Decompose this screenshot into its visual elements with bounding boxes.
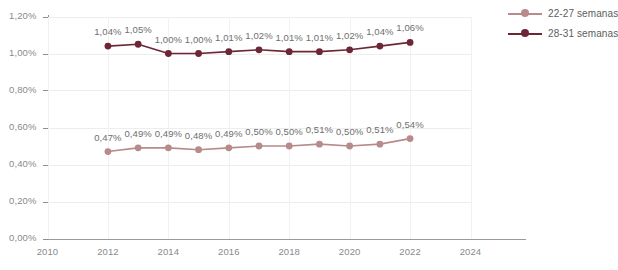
- data-point-marker[interactable]: [346, 46, 353, 53]
- data-point-label: 1,06%: [396, 22, 423, 33]
- data-point-label: 1,00%: [185, 34, 212, 45]
- data-point-marker[interactable]: [376, 43, 383, 50]
- data-point-marker[interactable]: [407, 135, 414, 142]
- data-point-marker[interactable]: [225, 144, 232, 151]
- data-point-label: 0,47%: [94, 132, 121, 143]
- data-point-marker[interactable]: [165, 50, 172, 57]
- data-point-label: 1,04%: [366, 26, 393, 37]
- data-point-label: 1,01%: [275, 32, 302, 43]
- data-point-label: 0,51%: [366, 124, 393, 135]
- legend-item[interactable]: 28-31 semanas: [508, 28, 618, 39]
- data-point-label: 0,49%: [124, 128, 151, 139]
- data-point-marker[interactable]: [376, 141, 383, 148]
- chart-legend: 22-27 semanas28-31 semanas: [508, 8, 618, 39]
- data-point-marker[interactable]: [135, 144, 142, 151]
- data-point-label: 0,48%: [185, 130, 212, 141]
- data-point-label: 0,51%: [306, 124, 333, 135]
- data-point-marker[interactable]: [105, 43, 112, 50]
- data-point-label: 0,50%: [275, 126, 302, 137]
- data-point-label: 1,02%: [336, 30, 363, 41]
- data-point-label: 0,49%: [215, 128, 242, 139]
- legend-item-label: 22-27 semanas: [548, 8, 618, 19]
- legend-item[interactable]: 22-27 semanas: [508, 8, 618, 19]
- data-point-label: 1,05%: [124, 24, 151, 35]
- legend-item-label: 28-31 semanas: [548, 28, 618, 39]
- data-point-marker[interactable]: [225, 48, 232, 55]
- data-point-marker[interactable]: [407, 39, 414, 46]
- data-point-marker[interactable]: [286, 143, 293, 150]
- data-point-label: 1,02%: [245, 30, 272, 41]
- legend-swatch-icon: [508, 28, 542, 39]
- data-point-marker[interactable]: [135, 41, 142, 48]
- data-point-marker[interactable]: [195, 146, 202, 153]
- data-point-label: 1,04%: [94, 26, 121, 37]
- data-point-label: 0,50%: [336, 126, 363, 137]
- data-point-marker[interactable]: [316, 141, 323, 148]
- data-point-marker[interactable]: [346, 143, 353, 150]
- data-point-marker[interactable]: [165, 144, 172, 151]
- data-point-label: 1,01%: [215, 32, 242, 43]
- data-point-label: 0,54%: [396, 119, 423, 130]
- data-point-label: 0,50%: [245, 126, 272, 137]
- data-point-label: 0,49%: [155, 128, 182, 139]
- data-point-marker[interactable]: [256, 46, 263, 53]
- legend-swatch-icon: [508, 8, 542, 19]
- data-point-marker[interactable]: [256, 143, 263, 150]
- data-point-marker[interactable]: [195, 50, 202, 57]
- data-point-marker[interactable]: [286, 48, 293, 55]
- data-point-marker[interactable]: [316, 48, 323, 55]
- data-point-marker[interactable]: [105, 148, 112, 155]
- data-point-label: 1,00%: [155, 34, 182, 45]
- data-point-label: 1,01%: [306, 32, 333, 43]
